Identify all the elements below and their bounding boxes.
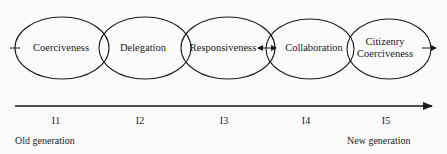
stage-label-citizenry-coerciveness: Coerciveness	[357, 48, 413, 60]
timeline-label-i1: I1	[52, 115, 60, 127]
stage-label-delegation: Delegation	[120, 42, 166, 54]
new-generation-label: New generation	[347, 135, 411, 147]
diagram-graphics	[0, 0, 447, 154]
timeline-label-i5: I5	[382, 115, 390, 127]
old-generation-label: Old generation	[15, 135, 75, 147]
stage-label-responsiveness: Responsiveness	[190, 42, 257, 54]
timeline-label-i2: I2	[136, 115, 144, 127]
stage-label-collaboration: Collaboration	[285, 42, 343, 54]
timeline-label-i3: I3	[220, 115, 228, 127]
stage-label-citizenry: Citizenry	[365, 36, 404, 48]
evolution-diagram: Coerciveness Delegation Responsiveness C…	[0, 0, 447, 154]
timeline-label-i4: I4	[302, 115, 310, 127]
stage-label-coerciveness: Coerciveness	[33, 42, 89, 54]
